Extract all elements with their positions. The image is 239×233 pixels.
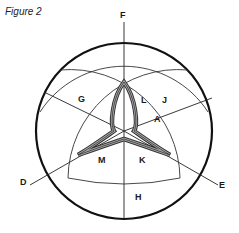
label-M: M [98, 155, 106, 165]
label-E: E [219, 180, 225, 190]
label-K: K [139, 155, 146, 165]
label-J: J [162, 95, 167, 105]
label-D: D [20, 177, 27, 187]
label-A: A [154, 114, 161, 124]
label-F: F [120, 10, 126, 20]
stereonet-diagram: F G L J A M K D E H [0, 0, 239, 233]
line-D [30, 131, 124, 185]
label-L: L [141, 95, 147, 105]
label-H: H [135, 192, 142, 202]
label-G: G [78, 94, 85, 104]
